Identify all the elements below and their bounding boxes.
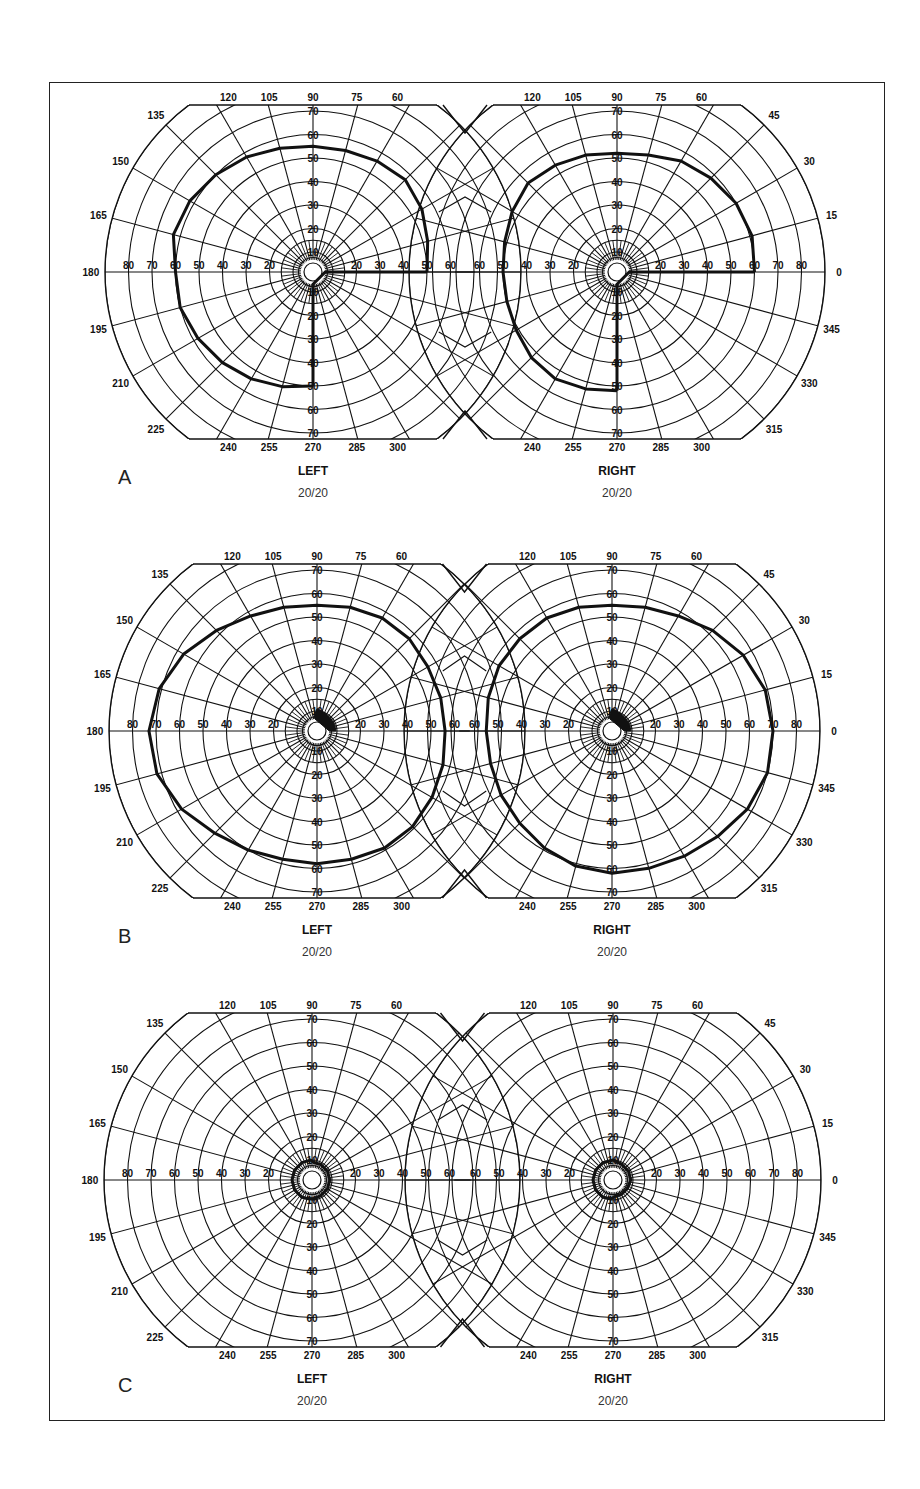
svg-text:30: 30 [674,1168,686,1179]
svg-text:30: 30 [540,1168,552,1179]
svg-text:20: 20 [355,719,367,730]
svg-text:30: 30 [678,260,690,271]
eye-title: RIGHT [598,464,636,478]
right-eye-chart: 1010202020203030303040404040505050506060… [393,960,838,1408]
svg-text:300: 300 [393,901,410,912]
svg-text:150: 150 [112,156,129,167]
svg-text:285: 285 [348,442,365,453]
svg-text:210: 210 [116,837,133,848]
svg-text:50: 50 [197,719,209,730]
svg-text:255: 255 [560,901,577,912]
svg-text:270: 270 [609,442,626,453]
visual-acuity: 20/20 [302,945,332,959]
panel-letter: A [118,466,132,488]
svg-text:225: 225 [147,1332,164,1343]
svg-text:75: 75 [650,551,662,562]
svg-text:105: 105 [565,92,582,103]
svg-text:20: 20 [311,683,323,694]
svg-text:0: 0 [832,1175,838,1186]
svg-text:240: 240 [524,442,541,453]
svg-text:50: 50 [307,153,319,164]
svg-text:300: 300 [388,1350,405,1361]
svg-text:285: 285 [352,901,369,912]
isopter-line [486,605,773,873]
svg-text:255: 255 [561,1350,578,1361]
svg-text:165: 165 [94,669,111,680]
svg-text:300: 300 [389,442,406,453]
svg-text:40: 40 [311,636,323,647]
svg-text:135: 135 [152,569,169,580]
svg-text:60: 60 [307,405,319,416]
svg-text:60: 60 [174,719,186,730]
svg-text:70: 70 [611,428,623,439]
svg-text:70: 70 [768,1168,780,1179]
svg-text:10: 10 [311,746,323,757]
svg-text:60: 60 [169,1168,181,1179]
svg-text:60: 60 [311,589,323,600]
svg-text:30: 30 [373,1168,385,1179]
svg-text:20: 20 [350,1168,362,1179]
svg-text:165: 165 [90,210,107,221]
svg-text:30: 30 [611,200,623,211]
svg-text:270: 270 [604,901,621,912]
svg-text:285: 285 [652,442,669,453]
svg-text:40: 40 [521,260,533,271]
svg-text:180: 180 [87,726,104,737]
svg-text:270: 270 [605,1350,622,1361]
svg-text:40: 40 [306,1266,318,1277]
svg-text:255: 255 [260,1350,277,1361]
svg-text:50: 50 [606,612,618,623]
svg-text:50: 50 [606,840,618,851]
svg-text:75: 75 [350,1000,362,1011]
svg-text:210: 210 [112,378,129,389]
svg-text:20: 20 [606,683,618,694]
svg-text:10: 10 [307,247,319,258]
svg-text:60: 60 [444,1168,456,1179]
svg-text:270: 270 [305,442,322,453]
svg-text:60: 60 [745,1168,757,1179]
svg-text:75: 75 [355,551,367,562]
svg-text:30: 30 [606,793,618,804]
svg-text:20: 20 [264,260,276,271]
svg-text:20: 20 [306,1132,318,1143]
svg-text:20: 20 [607,1219,619,1230]
svg-text:80: 80 [792,1168,804,1179]
svg-text:60: 60 [611,405,623,416]
svg-text:70: 70 [607,1014,619,1025]
svg-text:10: 10 [606,746,618,757]
svg-text:30: 30 [673,719,685,730]
svg-text:240: 240 [520,1350,537,1361]
svg-text:20: 20 [650,719,662,730]
svg-text:20: 20 [655,260,667,271]
svg-text:40: 40 [306,1085,318,1096]
svg-text:20: 20 [263,1168,275,1179]
svg-text:60: 60 [445,260,457,271]
svg-text:150: 150 [116,615,133,626]
svg-text:135: 135 [148,110,165,121]
svg-text:70: 70 [306,1014,318,1025]
svg-text:30: 30 [307,200,319,211]
svg-text:90: 90 [311,551,323,562]
svg-text:240: 240 [219,1350,236,1361]
svg-text:285: 285 [647,901,664,912]
svg-text:60: 60 [306,1038,318,1049]
eye-title: LEFT [297,1372,328,1386]
svg-text:180: 180 [83,267,100,278]
svg-text:315: 315 [762,1332,779,1343]
svg-text:60: 60 [396,551,408,562]
svg-text:50: 50 [725,260,737,271]
visual-acuity: 20/20 [298,486,328,500]
panel-letter: B [118,925,131,947]
svg-text:255: 255 [261,442,278,453]
svg-text:50: 50 [607,1061,619,1072]
svg-text:30: 30 [544,260,556,271]
svg-text:225: 225 [148,424,165,435]
svg-text:50: 50 [306,1061,318,1072]
svg-text:40: 40 [698,1168,710,1179]
svg-text:30: 30 [311,659,323,670]
svg-text:20: 20 [606,770,618,781]
svg-text:165: 165 [89,1118,106,1129]
svg-text:30: 30 [804,156,816,167]
svg-text:30: 30 [607,1108,619,1119]
svg-text:30: 30 [539,719,551,730]
